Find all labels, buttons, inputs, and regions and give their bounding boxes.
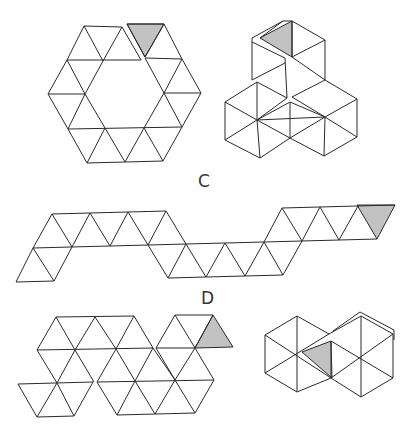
d-net-shaded-triangle — [195, 315, 233, 348]
d-strip-shaded-triangle — [357, 205, 395, 239]
d-strip-net — [16, 205, 395, 282]
d-folded-shaded-face — [302, 341, 332, 378]
c-folded-model — [225, 21, 357, 158]
label-c: C — [198, 171, 210, 191]
label-d: D — [201, 288, 214, 308]
d-compact-net — [18, 315, 233, 417]
d-folded-model — [265, 312, 394, 397]
c-ring-net — [48, 24, 201, 163]
flexagon-diagram — [0, 0, 413, 432]
c-shaded-triangle — [127, 24, 164, 57]
